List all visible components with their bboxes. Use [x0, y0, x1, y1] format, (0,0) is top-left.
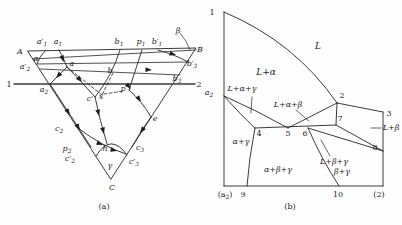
label-point-9: 9: [240, 190, 245, 199]
label-region-L-beta-gamma: L+β+γ: [319, 157, 348, 166]
label-region-alpha-beta-gamma: α+β+γ: [264, 165, 292, 174]
label-line-end-1: 1: [6, 80, 11, 89]
label-axis-a2: (a2): [218, 190, 233, 200]
label-axis-2: (2): [373, 190, 384, 199]
band-line-a2p-b3p: [37, 62, 188, 64]
label-point-3: 3: [386, 109, 391, 118]
label-point-h: h: [102, 144, 107, 153]
label-point-7: 7: [337, 114, 342, 123]
label-beta: β: [175, 26, 181, 35]
label-point-x: x: [99, 92, 104, 101]
label-point-b: b: [107, 66, 112, 75]
label-region-alpha-gamma: α+γ: [233, 137, 250, 146]
label-b-prime-1: b′1: [152, 37, 163, 47]
label-c-3: c3: [136, 143, 144, 153]
label-c-prime: c′: [87, 94, 93, 103]
figure: Aa′1a1b1p1b′1βBαa′2ab′3bb312a2c′xpec2c3p…: [0, 0, 402, 225]
label-caption-a: (a): [98, 202, 109, 211]
label-region-L-alpha-gamma: L+α+γ: [227, 84, 257, 93]
label-c-2: c2: [55, 124, 63, 134]
label-point-10: 10: [333, 190, 343, 199]
beta-leader-line: [180, 33, 190, 50]
label-region-beta-gamma: β+γ: [333, 167, 350, 176]
label-line-end-2: 2: [196, 80, 201, 89]
horizontal-4-7: [255, 125, 336, 128]
label-point-4: 4: [256, 129, 261, 138]
label-point-a2: a2: [205, 88, 214, 98]
label-point-1: 1: [209, 8, 214, 17]
label-region-L-beta: L+β: [382, 123, 400, 132]
label-point-a: a: [70, 59, 75, 68]
label-a-prime-1: a′1: [37, 37, 47, 47]
label-p-1: p1: [137, 37, 146, 47]
curve-cprime-h: [95, 97, 107, 144]
direction-arrow-icon: [145, 67, 152, 72]
curve-a2-4: [224, 96, 255, 128]
label-a-1: a1: [54, 37, 62, 47]
leader-L-alpha-gamma: [251, 97, 252, 113]
label-point-2: 2: [339, 91, 344, 100]
label-caption-b: (b): [284, 202, 295, 211]
label-a-2: a2: [40, 85, 49, 95]
label-c-prime-3: c′3: [129, 157, 139, 167]
label-point-p: p: [120, 84, 125, 93]
label-region-L-alpha: L+α: [255, 67, 276, 77]
label-vertex-C: C: [109, 183, 115, 192]
label-c-prime-2: c′2: [65, 154, 75, 164]
leader-L-beta-gamma: [321, 140, 330, 156]
figure-svg: Aa′1a1b1p1b′1βBαa′2ab′3bb312a2c′xpec2c3p…: [0, 0, 402, 225]
label-point-6: 6: [302, 129, 307, 138]
label-alpha: α: [33, 54, 39, 63]
label-point-5: 5: [285, 129, 290, 138]
label-p-2: p2: [63, 144, 72, 154]
label-gamma: γ: [108, 161, 113, 170]
curve-a2-p2: [50, 84, 91, 147]
label-a-prime-2: a′2: [20, 62, 31, 72]
label-vertex-A: A: [16, 47, 23, 56]
leader-L-alpha-beta: [296, 110, 309, 121]
label-point-8: 8: [372, 143, 377, 152]
panel-b: 1a2LL+αL+α+γL+α+β237L+β8456α+γα+β+γL+β+γ…: [205, 8, 400, 211]
direction-arrow-icon: [95, 109, 101, 116]
curve-p-e: [129, 90, 151, 117]
label-vertex-B: B: [196, 45, 203, 54]
panel-a: Aa′1a1b1p1b′1βBαa′2ab′3bb312a2c′xpec2c3p…: [6, 26, 203, 211]
label-b-3: b3: [173, 74, 182, 84]
label-region-L: L: [314, 41, 321, 51]
line-2-3: [337, 103, 383, 112]
label-b-prime-3: b′3: [187, 59, 198, 69]
direction-arrow-icon: [100, 127, 106, 134]
label-region-L-alpha-beta: L+α+β: [273, 100, 303, 109]
label-b-1: b1: [115, 37, 124, 47]
label-point-e: e: [153, 114, 158, 123]
